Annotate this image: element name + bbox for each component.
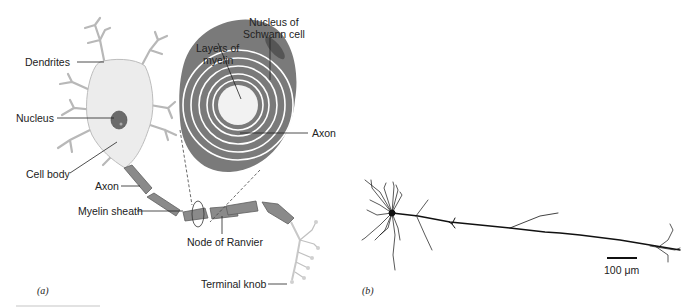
panel-a-label: (a): [37, 285, 49, 297]
soma: [389, 210, 395, 216]
scale-bar-label: 100 μm: [604, 264, 639, 276]
label-terminal-knob: Terminal knob: [201, 278, 267, 290]
label-nucleus: Nucleus: [16, 112, 54, 124]
label-axon-cross-section: Axon: [312, 127, 336, 139]
label-nucleus-of-schwann-cell: Nucleus of Schwann cell: [243, 16, 305, 40]
label-dendrites: Dendrites: [25, 56, 70, 68]
label-node-of-ranvier: Node of Ranvier: [187, 236, 263, 248]
label-axon: Axon: [95, 180, 119, 192]
label-myelin-sheath: Myelin sheath: [78, 205, 143, 217]
neuron-tracing: [362, 180, 680, 270]
nucleus: [111, 111, 127, 129]
neuron-diagram: Dendrites Nucleus Cell body Axon Myelin …: [0, 0, 692, 307]
panel-b-label: (b): [362, 285, 374, 297]
myelin-sheath-segments: [124, 165, 294, 224]
label-cell-body: Cell body: [26, 168, 71, 180]
dendritic-arbor: [362, 180, 402, 270]
